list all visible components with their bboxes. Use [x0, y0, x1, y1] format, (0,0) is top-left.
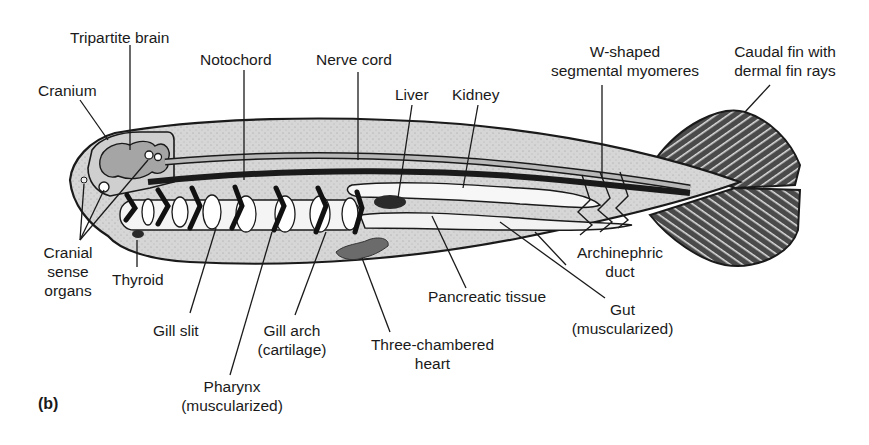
label-pharynx: Pharynx (muscularized): [172, 377, 292, 415]
panel-label: (b): [38, 395, 58, 413]
label-gill-slit: Gill slit: [153, 321, 199, 340]
label-pancreatic-tissue: Pancreatic tissue: [428, 287, 546, 306]
label-kidney: Kidney: [452, 85, 499, 104]
sense-organ-nasal: [81, 177, 87, 183]
label-thyroid: Thyroid: [112, 270, 164, 289]
label-liver: Liver: [395, 85, 429, 104]
label-nerve-cord: Nerve cord: [316, 50, 392, 69]
sense-organ-otic: [145, 151, 153, 159]
label-myomeres: W-shaped segmental myomeres: [540, 42, 710, 80]
label-archinephric-duct: Archinephric duct: [570, 243, 670, 281]
label-tripartite-brain: Tripartite brain: [70, 28, 169, 47]
thyroid-shape: [132, 230, 144, 238]
label-cranium: Cranium: [38, 81, 97, 100]
label-gut: Gut (muscularized): [560, 300, 685, 338]
label-heart: Three-chambered heart: [360, 335, 505, 373]
chordate-anatomy-diagram: Tripartite brain Cranium Notochord Nerve…: [0, 0, 869, 445]
label-cranial-sense-organs: Cranial sense organs: [38, 243, 98, 300]
label-gill-arch: Gill arch (cartilage): [252, 321, 332, 359]
label-notochord: Notochord: [200, 50, 272, 69]
label-caudal-fin: Caudal fin with dermal fin rays: [715, 42, 855, 80]
liver-shape: [374, 195, 406, 209]
